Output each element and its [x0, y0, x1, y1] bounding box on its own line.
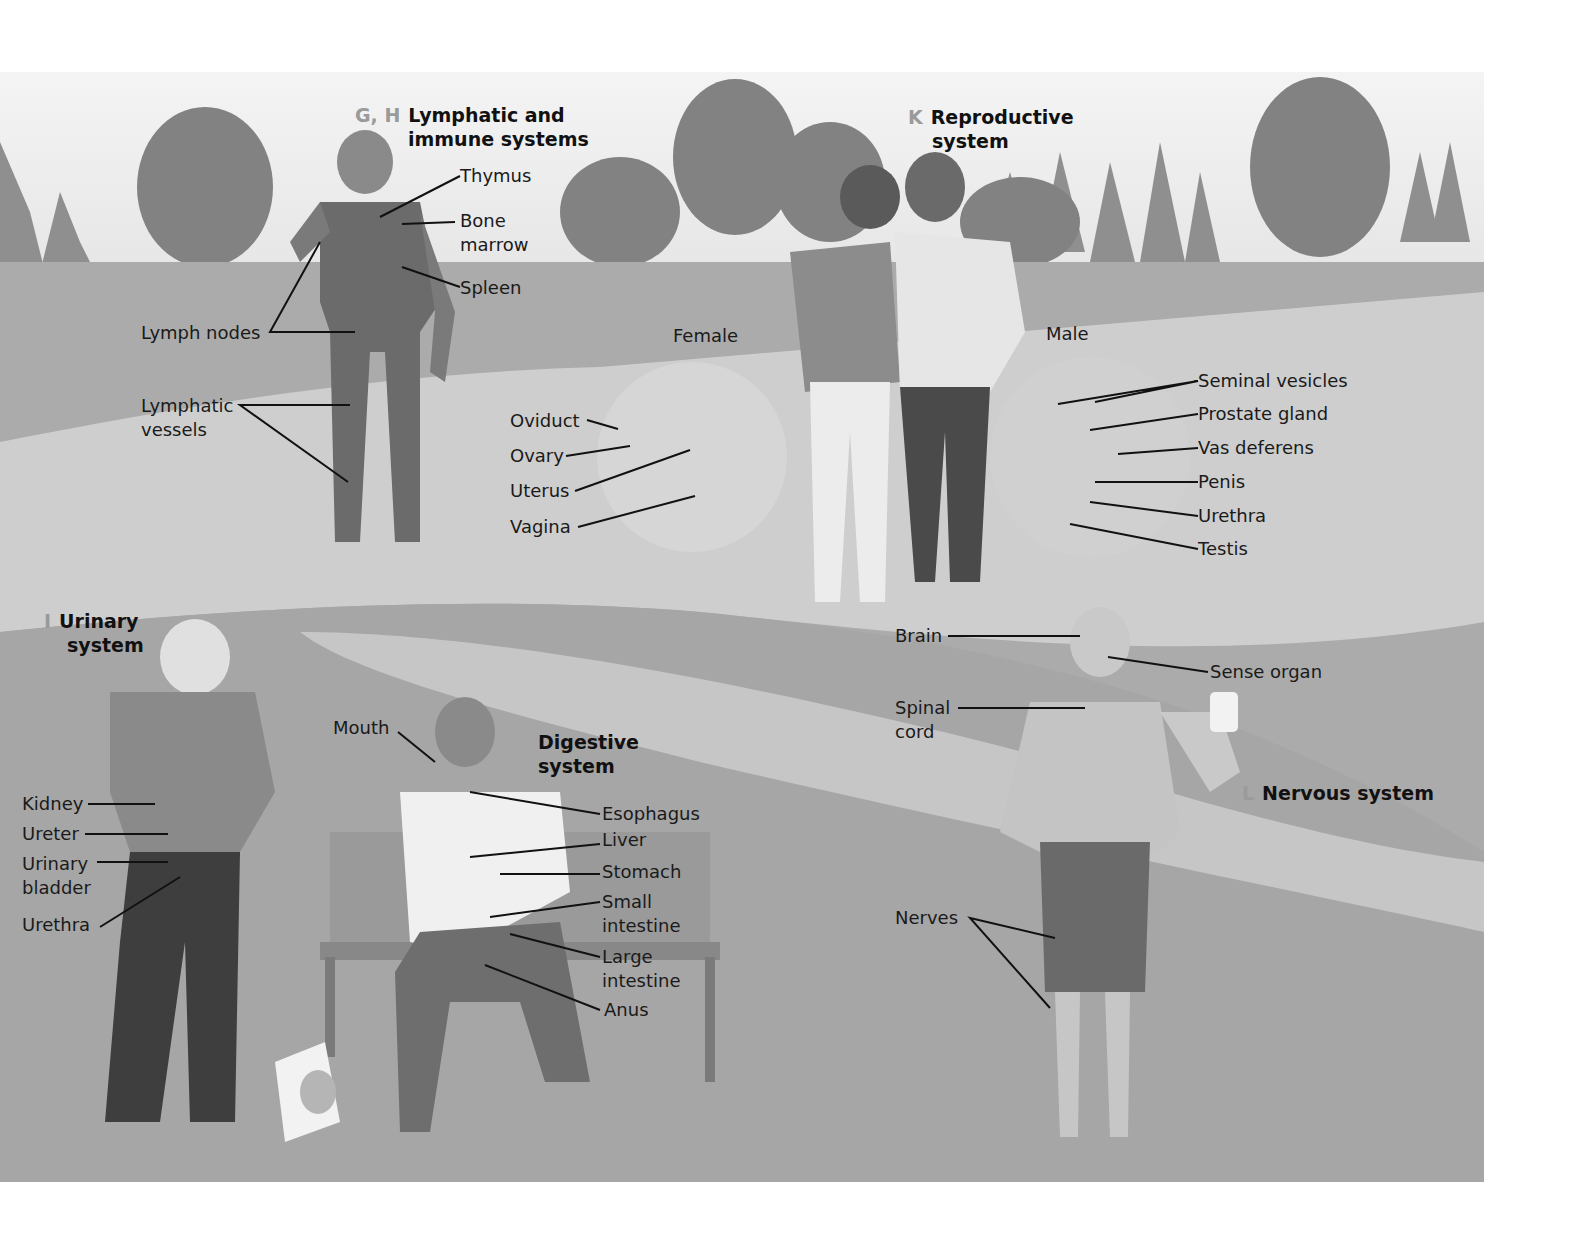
male-inset — [990, 357, 1190, 557]
label-vas-deferens: Vas deferens — [1198, 436, 1314, 460]
lymphatic-system-title: G, HLymphatic and — [355, 103, 565, 127]
female-heading: Female — [673, 324, 738, 348]
nervous-system-title: LNervous system — [1242, 781, 1434, 805]
label-bladder: bladder — [22, 876, 91, 900]
label-prostate-gland: Prostate gland — [1198, 402, 1328, 426]
label-urethra-urinary: Urethra — [22, 913, 90, 937]
figure-code: G, H — [355, 104, 400, 126]
label-uterus: Uterus — [510, 479, 570, 503]
female-inset — [597, 362, 787, 552]
label-small-intestine: intestine — [602, 914, 680, 938]
label-seminal-vesicles: Seminal vesicles — [1198, 369, 1348, 393]
label-stomach: Stomach — [602, 860, 681, 884]
reproductive-system-title-line2: system — [932, 129, 1009, 153]
label-vagina: Vagina — [510, 515, 571, 539]
label-sense-organ: Sense organ — [1210, 660, 1322, 684]
label-esophagus: Esophagus — [602, 802, 700, 826]
label-small: Small — [602, 890, 652, 914]
figure-code: L — [1242, 782, 1254, 804]
label-penis: Penis — [1198, 470, 1245, 494]
male-heading: Male — [1046, 322, 1089, 346]
label-kidney: Kidney — [22, 792, 83, 816]
label-lymph-nodes: Lymph nodes — [141, 321, 260, 345]
label-spinal: Spinal — [895, 696, 950, 720]
figure-code: K — [908, 106, 923, 128]
figure-code: I — [44, 610, 51, 632]
label-cord: cord — [895, 720, 934, 744]
body-systems-illustration: G, HLymphatic and immune systems Thymus … — [0, 72, 1484, 1182]
label-large: Large — [602, 945, 653, 969]
label-lymphatic: Lymphatic — [141, 394, 233, 418]
label-testis: Testis — [1198, 537, 1248, 561]
lymphatic-system-title-line2: immune systems — [408, 127, 589, 151]
label-ovary: Ovary — [510, 444, 564, 468]
urinary-system-title-line2: system — [67, 633, 144, 657]
label-bone: Bone — [460, 209, 506, 233]
digestive-system-title: Digestive — [538, 730, 639, 754]
label-mouth: Mouth — [333, 716, 389, 740]
digestive-system-title-line2: system — [538, 754, 615, 778]
label-brain: Brain — [895, 624, 942, 648]
label-ureter: Ureter — [22, 822, 79, 846]
label-spleen: Spleen — [460, 276, 521, 300]
label-nerves: Nerves — [895, 906, 958, 930]
label-large-intestine: intestine — [602, 969, 680, 993]
label-urinary: Urinary — [22, 852, 88, 876]
music-player-icon — [1210, 692, 1238, 732]
label-urethra-male: Urethra — [1198, 504, 1266, 528]
urinary-system-title: IUrinary — [44, 609, 139, 633]
reproductive-system-title: KReproductive — [908, 105, 1074, 129]
park-background — [0, 72, 1484, 1182]
label-anus: Anus — [604, 998, 649, 1022]
label-thymus: Thymus — [460, 164, 531, 188]
label-oviduct: Oviduct — [510, 409, 580, 433]
label-marrow: marrow — [460, 233, 528, 257]
label-liver: Liver — [602, 828, 646, 852]
label-vessels: vessels — [141, 418, 207, 442]
